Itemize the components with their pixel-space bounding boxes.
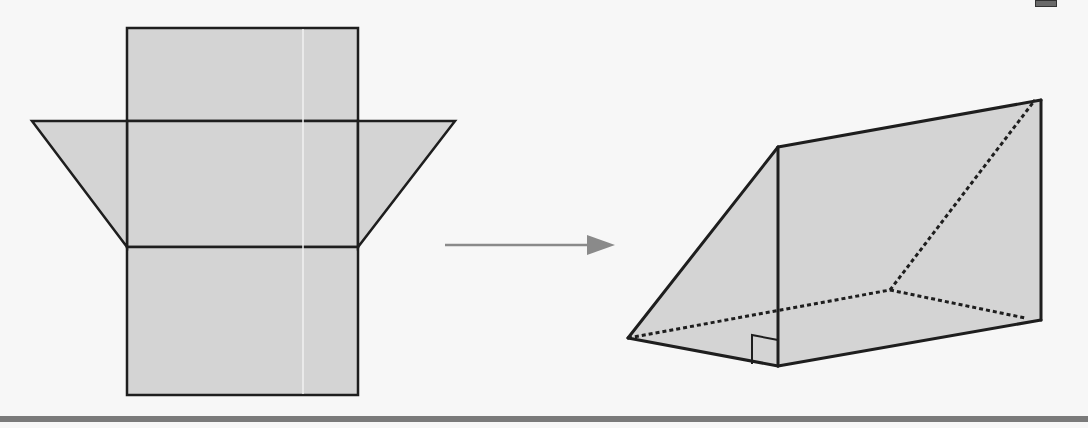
bottom-rectangle-face [127,247,358,395]
top-rectangle-face [127,28,358,121]
corner-fragment [1035,0,1057,7]
arrow-head-icon [587,235,615,255]
bottom-divider-bar [0,416,1088,422]
fold-arrow [445,235,615,255]
middle-rectangle-face [127,121,358,247]
prism-net-diagram [0,0,1088,428]
triangular-prism [628,100,1041,366]
left-triangle-face [32,121,127,247]
right-triangle-face [358,121,455,247]
prism-net [32,28,455,395]
